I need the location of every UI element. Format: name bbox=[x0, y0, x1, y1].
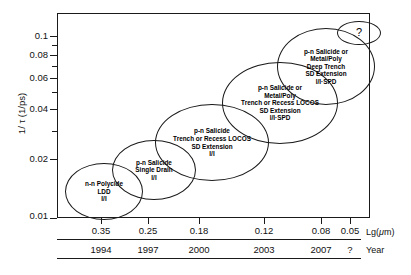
bubble-line: SD Extension bbox=[305, 70, 346, 78]
y-axis-label-0.01: 0.01 bbox=[4, 211, 48, 221]
y-tick-0.1 bbox=[50, 36, 57, 37]
bubble-line: I/I bbox=[101, 195, 106, 203]
x-tick-0.12 bbox=[264, 218, 265, 224]
row-divider-top bbox=[57, 239, 361, 240]
bubble-line: p-n Salicide or bbox=[304, 48, 348, 56]
x-axis-label-0.12: 0.12 bbox=[244, 226, 284, 236]
y-axis-label-0.08: 0.08 bbox=[4, 50, 48, 60]
y-axis-title: 1/ τ (1/ps) bbox=[16, 74, 27, 154]
y-tick-minor-0.05 bbox=[52, 92, 57, 93]
x-axis-label-0.35: 0.35 bbox=[81, 226, 121, 236]
y-tick-0.08 bbox=[50, 55, 57, 56]
x-tick-0.18 bbox=[199, 218, 200, 224]
year-cell-1994: 1994 bbox=[81, 245, 121, 255]
bubble-line: Deep Trench bbox=[307, 63, 345, 71]
bubble-line: Trench or Recess LOCOS bbox=[173, 135, 251, 143]
x-axis-label-0.25: 0.25 bbox=[128, 226, 168, 236]
year-cell-2003: 2003 bbox=[244, 245, 284, 255]
bubble-line: I/I·SPD bbox=[270, 114, 291, 122]
bubble-line: ? bbox=[356, 29, 362, 37]
bubble-future-unknown[interactable]: ? bbox=[337, 21, 381, 45]
x-axis-label-0.18: 0.18 bbox=[179, 226, 219, 236]
y-axis-label-0.06: 0.06 bbox=[4, 73, 48, 83]
y-tick-0.04 bbox=[50, 109, 57, 110]
y-axis-label-0.04: 0.04 bbox=[4, 104, 48, 114]
bubble-line: I/I bbox=[209, 150, 214, 158]
x-tick-0.25 bbox=[148, 218, 149, 224]
y-tick-minor-0.03 bbox=[52, 131, 57, 132]
row-divider-bottom bbox=[57, 258, 361, 259]
x-axis-title-suffix: m) bbox=[384, 227, 395, 237]
x-axis-title: Lg(μm) bbox=[366, 227, 394, 237]
bubble-line: Metal/Poly bbox=[310, 55, 342, 63]
year-cell-2000: 2000 bbox=[179, 245, 219, 255]
bubble-line: SD Extension bbox=[191, 143, 232, 151]
bubble-line: p-n Salicide bbox=[194, 127, 230, 135]
year-row-title: Year bbox=[366, 245, 384, 255]
y-tick-0.01 bbox=[50, 218, 57, 219]
bubble-line: Single Drain bbox=[135, 166, 172, 174]
y-tick-minor-0.09 bbox=[52, 45, 57, 46]
bubble-line: I/I bbox=[151, 174, 156, 182]
y-tick-0.02 bbox=[50, 159, 57, 160]
y-tick-0.06 bbox=[50, 78, 57, 79]
x-tick-0.05 bbox=[350, 218, 351, 224]
y-tick-minor-0.07 bbox=[52, 66, 57, 67]
y-axis-label-0.1: 0.1 bbox=[4, 31, 48, 41]
x-tick-0.08 bbox=[321, 218, 322, 224]
x-axis-label-0.05: 0.05 bbox=[330, 226, 370, 236]
bubble-line: SD Extension bbox=[259, 107, 300, 115]
x-axis-title-prefix: Lg( bbox=[366, 227, 379, 237]
chart-canvas: 1/ τ (1/ps) 0.1 0.08 0.06 0.04 0.02 0.01… bbox=[0, 0, 411, 275]
year-cell-unknown: ? bbox=[330, 245, 370, 255]
year-cell-1997: 1997 bbox=[128, 245, 168, 255]
bubble-line: LDD bbox=[97, 188, 110, 196]
bubble-line: I/I·SPD bbox=[316, 78, 337, 86]
y-axis-label-0.02: 0.02 bbox=[4, 154, 48, 164]
